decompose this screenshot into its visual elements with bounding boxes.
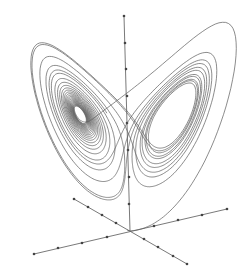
vertical-axis-tick	[123, 15, 126, 18]
axis-a-tick	[201, 214, 204, 217]
axis-b-tick	[143, 238, 146, 241]
axis-b-tick	[115, 222, 118, 225]
attractor-plot	[0, 0, 245, 274]
attractor-trajectory	[31, 22, 237, 230]
vertical-axis-tick	[126, 95, 129, 98]
axis-a-tick	[81, 242, 84, 245]
axis-a-tick	[226, 208, 229, 211]
axis-a-tick	[177, 219, 180, 222]
vertical-axis-tick	[124, 42, 127, 45]
vertical-axis-tick	[128, 176, 131, 179]
axis-b-tick	[172, 255, 175, 258]
axis-a-tick	[153, 225, 156, 228]
axis-a-tick	[33, 253, 36, 256]
vertical-axis-tick	[128, 203, 131, 206]
vertical-axis-tick	[125, 68, 128, 71]
lorenz-attractor-figure	[0, 0, 245, 274]
axis-b	[74, 199, 187, 264]
axis-b-tick	[87, 206, 90, 209]
axis-a-tick	[106, 236, 109, 239]
axis-b-tick	[186, 263, 189, 266]
axis-b-tick	[73, 198, 76, 201]
axis-a-tick	[57, 247, 60, 250]
axis-b-tick	[101, 214, 104, 217]
axis-b-tick	[157, 246, 160, 249]
